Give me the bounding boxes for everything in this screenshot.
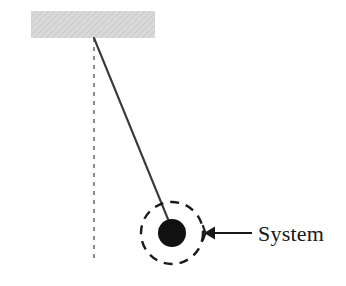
ceiling-support-block (31, 11, 155, 38)
system-label: System (258, 221, 324, 246)
diagram-canvas: System (0, 0, 346, 286)
pendulum-string (94, 38, 172, 229)
pendulum-system-figure: System (0, 0, 346, 286)
pendulum-bob (158, 219, 186, 247)
